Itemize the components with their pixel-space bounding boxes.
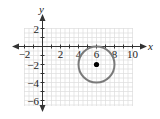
y-axis-label: y — [38, 3, 44, 15]
coordinate-plane: x y −2 2 4 6 8 10 2 −2 −4 −6 — [0, 0, 160, 119]
x-tick-label: 6 — [94, 48, 100, 60]
y-axis — [41, 18, 45, 108]
center-point — [94, 62, 99, 67]
y-axis-down-arrow-icon — [40, 105, 46, 112]
x-axis-right-arrow-icon — [140, 44, 147, 50]
y-tick-label: −4 — [27, 77, 39, 89]
y-tick-label: 2 — [34, 23, 40, 35]
y-tick-label: −6 — [27, 95, 39, 107]
x-axis-label: x — [147, 40, 153, 52]
x-tick-label: 2 — [58, 48, 64, 60]
y-axis-up-arrow-icon — [40, 14, 46, 21]
y-tick-label: −2 — [27, 59, 39, 71]
x-tick-label: 10 — [127, 48, 139, 60]
